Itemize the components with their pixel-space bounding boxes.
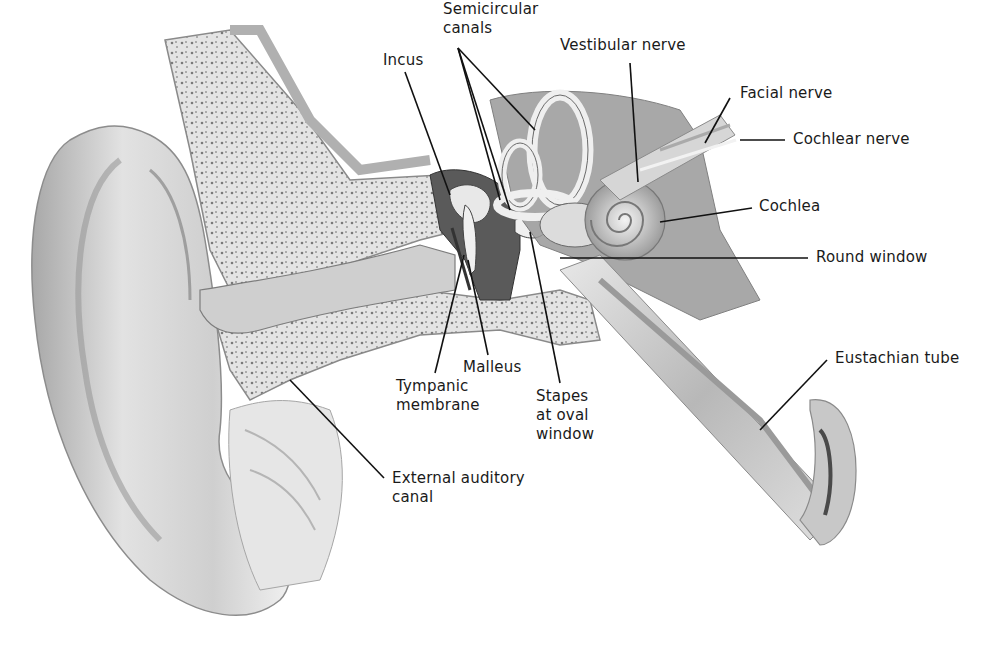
label-facial-nerve: Facial nerve <box>740 84 832 103</box>
label-semicircular-canals: Semicircular canals <box>443 0 538 38</box>
label-stapes-at-oval-window: Stapes at oval window <box>536 387 594 444</box>
label-malleus: Malleus <box>463 358 521 377</box>
label-tympanic-membrane: Tympanic membrane <box>396 377 480 415</box>
label-cochlear-nerve: Cochlear nerve <box>793 130 910 149</box>
label-cochlea: Cochlea <box>759 197 820 216</box>
label-round-window: Round window <box>816 248 928 267</box>
label-eustachian-tube: Eustachian tube <box>835 349 959 368</box>
label-vestibular-nerve: Vestibular nerve <box>560 36 686 55</box>
ear-anatomy-diagram: Semicircular canals Incus Vestibular ner… <box>0 0 989 645</box>
label-incus: Incus <box>383 51 424 70</box>
label-external-auditory-canal: External auditory canal <box>392 469 525 507</box>
ear-illustration <box>0 0 989 645</box>
